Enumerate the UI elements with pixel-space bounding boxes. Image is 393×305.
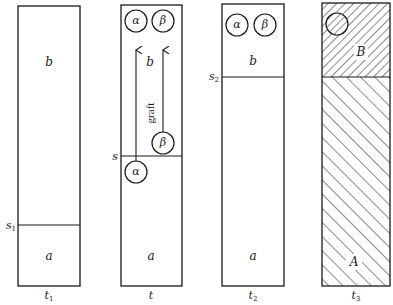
time-label-t3: t3 (352, 290, 361, 303)
circle-alpha-top-label: α (132, 15, 139, 26)
panel-t (121, 5, 182, 286)
region-a-label-t2: a (249, 250, 256, 262)
boundary-subscript: 2 (215, 76, 219, 84)
panel-t2-box (222, 4, 284, 286)
region-a-label-t: a (147, 250, 154, 262)
region-b-label-t: b (146, 56, 154, 68)
region-b-label-t1: b (45, 56, 53, 68)
diagram-canvas (0, 0, 393, 305)
time-label-t1: t1 (45, 290, 54, 303)
circle-beta-label-t2: β (262, 19, 268, 30)
region-A-label-t3: A (350, 256, 359, 268)
graft-label: graft (145, 103, 156, 124)
boundary-label-s1: s1 (6, 220, 16, 233)
boundary-subscript: 1 (12, 225, 16, 233)
boundary-label-s2: s2 (209, 71, 219, 84)
circle-beta-top-label: β (160, 15, 166, 26)
circle-beta-source-label: β (160, 137, 166, 148)
time-subscript: 2 (253, 295, 257, 303)
time-label-t2: t2 (249, 290, 258, 303)
circle-alpha-source-label: α (132, 166, 139, 177)
hatched-circle (326, 13, 348, 35)
time-label-t: t (149, 290, 153, 301)
circle-alpha-label-t2: α (233, 19, 240, 30)
region-B-label-t3: B (357, 46, 366, 58)
panel-t2 (222, 4, 284, 286)
boundary-label-s: s (112, 151, 118, 162)
time-subscript: 3 (356, 295, 360, 303)
diagram-stage: b a s1 t1 α β b graft β α a s t α β b a … (0, 0, 393, 305)
panel-t1 (18, 6, 80, 286)
panel-t1-box (18, 6, 80, 286)
region-a-label-t1: a (45, 250, 52, 262)
time-subscript: 1 (49, 295, 53, 303)
region-b-label-t2: b (249, 55, 257, 67)
